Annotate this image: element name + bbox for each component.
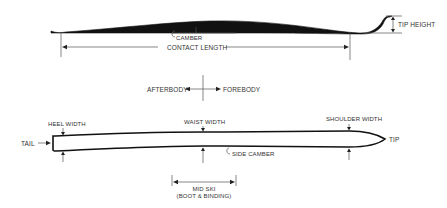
tail-label: TAIL — [21, 140, 35, 147]
tip-label: TIP — [389, 136, 399, 143]
side-camber-hook-icon — [227, 148, 230, 154]
waist-width-bottom-arrow-icon — [201, 148, 205, 152]
tip-height-label: TIP HEIGHT — [398, 21, 435, 28]
contact-length-label: CONTACT LENGTH — [167, 44, 228, 51]
contact-length-arrow-left-icon — [62, 45, 67, 49]
side-camber-label: SIDE CAMBER — [232, 151, 275, 157]
ski-side-profile — [51, 16, 392, 34]
forebody-arrow-icon — [216, 87, 221, 91]
afterbody-label: AFTERBODY — [147, 86, 188, 93]
contact-length-arrow-right-icon — [344, 45, 349, 49]
tail-arrow-icon — [46, 141, 51, 145]
shoulder-width-top-arrow-icon — [347, 127, 351, 131]
heel-width-label: HEEL WIDTH — [48, 121, 86, 127]
ski-diagram: TIP HEIGHT CAMBER CONTACT LENGTH AFTERBO… — [0, 0, 447, 208]
mid-ski-arrow-right-icon — [230, 180, 235, 184]
mid-ski-sublabel: (BOOT & BINDING) — [177, 193, 232, 199]
direction-indicator: AFTERBODY FOREBODY — [147, 75, 261, 101]
heel-width-bottom-arrow-icon — [61, 152, 65, 156]
tip-height-arrow-up-icon — [391, 17, 395, 21]
ski-top-outline — [53, 131, 385, 151]
waist-width-top-arrow-icon — [201, 128, 205, 132]
shoulder-width-bottom-arrow-icon — [347, 149, 351, 153]
tip-height-arrow-down-icon — [391, 29, 395, 33]
waist-width-label: WAIST WIDTH — [184, 119, 225, 125]
mid-ski-arrow-left-icon — [173, 180, 178, 184]
mid-ski-label: MID SKI — [192, 186, 215, 192]
camber-label: CAMBER — [176, 35, 203, 41]
forebody-label: FOREBODY — [223, 86, 261, 93]
shoulder-width-label: SHOULDER WIDTH — [326, 116, 382, 122]
side-view: TIP HEIGHT CAMBER CONTACT LENGTH — [51, 16, 435, 60]
top-view: TAIL TIP HEEL WIDTH WAIST WIDTH SHOULDER… — [21, 116, 399, 199]
